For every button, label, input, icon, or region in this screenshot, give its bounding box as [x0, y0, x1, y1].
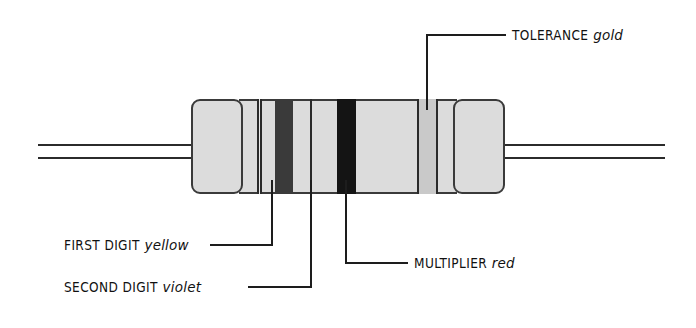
callout-color-first-digit: yellow	[144, 237, 188, 253]
lead-right-lower	[503, 157, 665, 159]
resistor-endcap-right	[453, 99, 505, 194]
resistor-endcap-left	[191, 99, 243, 194]
lead-right-upper	[503, 144, 665, 146]
band-tolerance-gold	[417, 99, 438, 194]
band-first-digit-yellow	[257, 99, 262, 194]
callout-color-tolerance: gold	[593, 27, 623, 43]
callout-category-multiplier: MULTIPLIER	[414, 255, 487, 271]
resistor-color-code-diagram: TOLERANCE gold FIRST DIGIT yellow SECOND…	[0, 0, 696, 328]
leader-multiplier-vertical	[345, 180, 347, 264]
leader-second-digit-horizontal	[248, 286, 312, 288]
callout-label-first-digit: FIRST DIGIT yellow	[64, 237, 189, 253]
lead-left-upper	[38, 144, 193, 146]
leader-tolerance-vertical	[426, 34, 428, 110]
callout-label-multiplier: MULTIPLIER red	[414, 255, 515, 271]
callout-color-multiplier: red	[492, 255, 515, 271]
callout-label-tolerance: TOLERANCE gold	[512, 27, 623, 43]
leader-first-digit-vertical	[271, 180, 273, 246]
leader-first-digit-horizontal	[210, 244, 273, 246]
leader-tolerance-horizontal	[426, 34, 506, 36]
callout-color-second-digit: violet	[163, 279, 202, 295]
leader-multiplier-horizontal	[345, 262, 408, 264]
callout-category-second-digit: SECOND DIGIT	[64, 279, 158, 295]
leader-second-digit-vertical	[310, 180, 312, 288]
callout-category-first-digit: FIRST DIGIT	[64, 237, 140, 253]
lead-left-lower	[38, 157, 193, 159]
band-second-digit-violet	[275, 99, 293, 194]
callout-category-tolerance: TOLERANCE	[512, 27, 588, 43]
callout-label-second-digit: SECOND DIGIT violet	[64, 279, 201, 295]
